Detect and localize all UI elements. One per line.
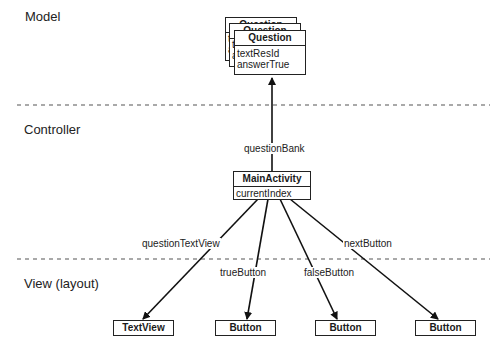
question-field-text-res-id: textResId <box>235 48 305 59</box>
question-class-title: Question <box>235 31 305 46</box>
view-next-button: Button <box>415 320 476 336</box>
edge-label-false-button: falseButton <box>303 267 355 278</box>
view-false-button: Button <box>315 320 376 336</box>
question-class: Question textResId answerTrue <box>234 30 306 75</box>
main-activity-class-title: MainActivity <box>234 172 310 187</box>
edge-label-next-button: nextButton <box>343 238 393 249</box>
view-true-button: Button <box>215 320 276 336</box>
edge-label-true-button: trueButton <box>219 267 267 278</box>
edge-label-question-bank: questionBank <box>243 143 306 154</box>
edge-label-question-text-view: questionTextView <box>141 238 221 249</box>
main-activity-field-current-index: currentIndex <box>234 187 310 200</box>
question-field-answer-true: answerTrue <box>235 59 305 70</box>
main-activity-class: MainActivity currentIndex <box>233 171 311 200</box>
view-textview: TextView <box>113 320 174 336</box>
